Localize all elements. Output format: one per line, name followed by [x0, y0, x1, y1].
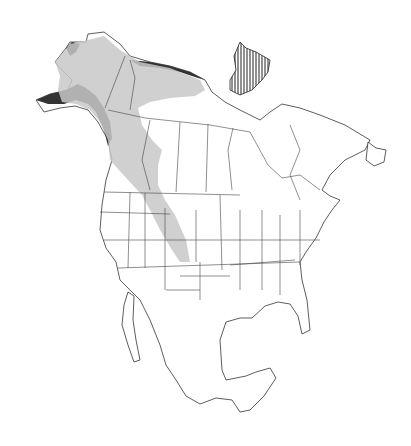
newfoundland	[366, 142, 386, 166]
arctic-island	[230, 42, 270, 95]
range-map	[0, 0, 411, 446]
baja-california	[122, 292, 140, 362]
